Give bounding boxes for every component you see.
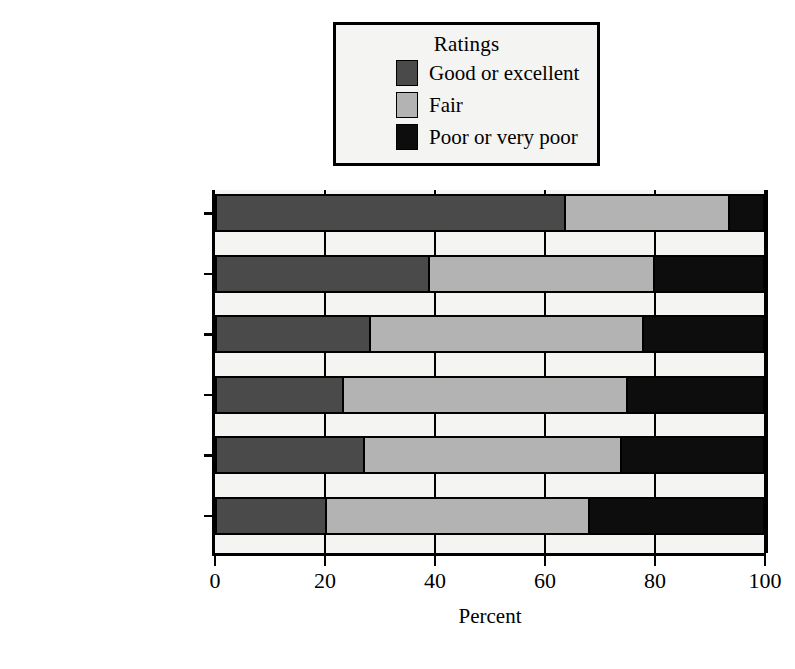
- y-tick: [204, 394, 215, 397]
- x-tick-label: 40: [405, 569, 465, 593]
- y-tick: [204, 212, 215, 215]
- bar-segment: [620, 438, 763, 472]
- y-tick: [204, 515, 215, 518]
- x-tick-20: [324, 553, 327, 566]
- x-tick-60: [544, 553, 547, 566]
- x-tick-40: [434, 553, 437, 566]
- bar-segment: [369, 317, 642, 351]
- legend-entry: Good or excellent: [336, 57, 597, 89]
- x-tick-label: 100: [735, 569, 795, 593]
- y-tick: [204, 273, 215, 276]
- stacked-bar: [215, 255, 765, 293]
- x-tick-label: 0: [185, 569, 245, 593]
- bar-row: Magistrates: [215, 315, 765, 353]
- x-tick-0: [214, 553, 217, 566]
- chart-legend: Ratings Good or excellentFairPoor or ver…: [333, 22, 600, 166]
- x-tick-label: 80: [625, 569, 685, 593]
- bar-segment: [217, 499, 325, 533]
- legend-swatch-good: [396, 60, 418, 86]
- bar-segment: [363, 438, 620, 472]
- x-tick-label: 20: [295, 569, 355, 593]
- bar-segment: [642, 317, 763, 351]
- bar-segment: [728, 196, 763, 230]
- stacked-bar-chart: Ratings Good or excellentFairPoor or ver…: [0, 0, 795, 669]
- x-tick-label: 60: [515, 569, 575, 593]
- x-tick-100: [764, 553, 767, 566]
- bar-segment: [325, 499, 587, 533]
- plot-area: PolicePrison serviceMagistratesCPSProbat…: [212, 190, 765, 556]
- stacked-bar: [215, 194, 765, 232]
- bar-segment: [653, 257, 763, 291]
- legend-title: Ratings: [336, 31, 597, 57]
- legend-entry-label: Poor or very poor: [429, 126, 578, 148]
- bar-segment: [428, 257, 652, 291]
- x-axis-title: Percent: [215, 604, 765, 629]
- y-tick: [204, 454, 215, 457]
- bar-segment: [564, 196, 729, 230]
- y-tick: [204, 333, 215, 336]
- stacked-bar: [215, 315, 765, 353]
- legend-entry: Poor or very poor: [336, 121, 597, 153]
- legend-entry-label: Fair: [429, 94, 463, 116]
- bar-segment: [626, 378, 764, 412]
- bar-segment: [342, 378, 626, 412]
- stacked-bar: [215, 436, 765, 474]
- bar-segment: [217, 196, 564, 230]
- bar-segment: [217, 438, 363, 472]
- stacked-bar: [215, 376, 765, 414]
- bar-row: Prison service: [215, 255, 765, 293]
- bar-segment: [217, 317, 369, 351]
- bar-segment: [588, 499, 763, 533]
- bar-row: Judges: [215, 497, 765, 535]
- x-tick-80: [654, 553, 657, 566]
- legend-entry-label: Good or excellent: [429, 62, 579, 84]
- legend-entry-list: Good or excellentFairPoor or very poor: [336, 57, 597, 153]
- bar-row: Police: [215, 194, 765, 232]
- bar-row: Probation service: [215, 436, 765, 474]
- bar-segment: [217, 257, 428, 291]
- stacked-bar: [215, 497, 765, 535]
- bar-row: CPS: [215, 376, 765, 414]
- legend-entry: Fair: [336, 89, 597, 121]
- legend-swatch-fair: [396, 92, 418, 118]
- bar-segment: [217, 378, 342, 412]
- legend-swatch-poor: [396, 124, 418, 150]
